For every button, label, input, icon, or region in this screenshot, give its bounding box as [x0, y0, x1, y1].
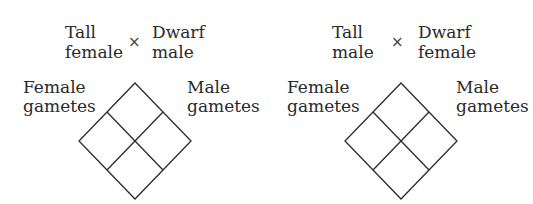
male-gametes-label-line2: gametes [187, 96, 260, 116]
reciprocal-cross-diagram: Tall female × Dwarf male Female gametes … [0, 0, 533, 204]
parent2-line2: male [152, 42, 194, 62]
cross-symbol: × [128, 33, 141, 51]
female-gametes-label-line1: Female [287, 77, 350, 97]
cross-right: Tall male × Dwarf female Female gametes … [287, 22, 529, 199]
cross-left: Tall female × Dwarf male Female gametes … [23, 22, 260, 199]
parent1-line1: Tall [332, 22, 363, 42]
parent2-line2: female [418, 42, 476, 62]
parent2-line1: Dwarf [418, 22, 472, 42]
parent1-line2: female [65, 42, 123, 62]
male-gametes-label-line2: gametes [456, 96, 529, 116]
parent1-line2: male [332, 42, 374, 62]
cross-symbol: × [391, 33, 404, 51]
female-gametes-label-line2: gametes [287, 96, 360, 116]
punnett-square [345, 83, 457, 199]
male-gametes-label-line1: Male [456, 77, 499, 97]
male-gametes-label-line1: Male [187, 77, 230, 97]
parent1-line1: Tall [65, 22, 96, 42]
female-gametes-label-line1: Female [23, 77, 86, 97]
female-gametes-label-line2: gametes [23, 96, 96, 116]
parent2-line1: Dwarf [152, 22, 206, 42]
